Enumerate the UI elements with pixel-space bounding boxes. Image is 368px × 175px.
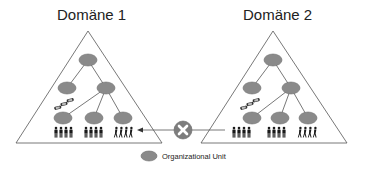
arrow-head-icon [137, 128, 143, 133]
domain-1-triangle [16, 31, 162, 143]
walking-people-icon [298, 127, 317, 138]
people-group-icon [84, 127, 102, 138]
org-unit-node [97, 82, 115, 94]
domain-1 [16, 31, 162, 143]
blocked-connection [137, 121, 225, 139]
org-unit-node [54, 112, 72, 124]
people-group-icon [54, 127, 72, 138]
org-unit-node [114, 112, 132, 124]
org-unit-node [85, 112, 103, 124]
org-unit-node [243, 112, 261, 124]
org-unit-node [299, 112, 317, 124]
org-unit-node [243, 82, 261, 94]
people-group-icon [232, 127, 250, 138]
cars-icon [53, 98, 75, 110]
org-unit-node [264, 54, 282, 66]
people-group-icon [267, 127, 285, 138]
legend-org-unit-icon [141, 151, 157, 161]
org-unit-node [271, 112, 289, 124]
domain-diagram [0, 0, 368, 175]
domain-2-triangle [201, 31, 347, 143]
domain-2 [201, 31, 347, 143]
walking-people-icon [114, 127, 133, 138]
org-unit-node [58, 82, 76, 94]
legend-label: Organizational Unit [162, 152, 226, 161]
org-unit-node [79, 54, 97, 66]
org-unit-node [282, 82, 300, 94]
cars-icon [239, 98, 261, 110]
